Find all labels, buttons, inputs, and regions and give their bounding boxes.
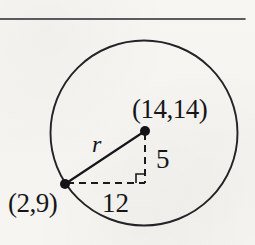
circle-point-label: (2,9) <box>8 190 57 217</box>
horizontal-leg-label: 12 <box>102 190 129 217</box>
circle-point-dot <box>60 179 70 189</box>
vertical-leg-label: 5 <box>156 146 170 173</box>
radius-label: r <box>92 132 101 156</box>
radius-segment-line <box>65 131 145 184</box>
right-angle-marker <box>136 174 145 183</box>
center-point-label: (14,14) <box>132 96 207 123</box>
center-point-dot <box>140 126 150 136</box>
figure-canvas: (14,14) (2,9) r 5 12 <box>0 0 255 245</box>
